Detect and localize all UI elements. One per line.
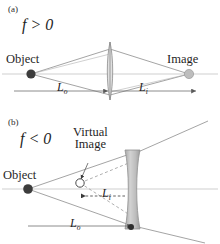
panel-a-Li-sub: i bbox=[146, 87, 148, 96]
panel-b-Lo-sub: o bbox=[77, 223, 81, 232]
ray-inner-upper-a bbox=[31, 54, 110, 74]
ray-lower-refracted-a bbox=[110, 74, 189, 95]
panel-b-Lo-base: L bbox=[70, 216, 77, 230]
object-distance-endpoint-b bbox=[128, 224, 134, 230]
virtual-image-leader-line bbox=[81, 163, 88, 179]
ray-upper-incident-a bbox=[31, 49, 110, 74]
panel-a-tag: (a) bbox=[8, 4, 18, 14]
panel-a-object-label: Object bbox=[6, 52, 39, 67]
panel-b-image-distance-label: Li bbox=[102, 186, 111, 202]
figure-canvas bbox=[0, 0, 220, 244]
panel-a-group bbox=[2, 42, 218, 100]
panel-a-image-distance-label: Li bbox=[139, 80, 148, 96]
virtual-image-caption: Virtual Image bbox=[73, 126, 108, 150]
virtual-image-point-b bbox=[76, 179, 84, 187]
panel-a-Lo-base: L bbox=[57, 80, 64, 94]
panel-a-focal-condition: f > 0 bbox=[22, 16, 53, 34]
optics-figure: (a) f > 0 Object Image Lo Li (b) f < 0 V… bbox=[0, 0, 220, 244]
panel-b-object-distance-label: Lo bbox=[70, 216, 80, 232]
panel-b-tag: (b) bbox=[8, 117, 19, 127]
panel-b-focal-condition: f < 0 bbox=[20, 130, 51, 148]
panel-a-Li-base: L bbox=[139, 80, 146, 94]
object-point-a bbox=[26, 69, 35, 78]
panel-b-object-label: Object bbox=[3, 168, 36, 183]
panel-b-Li-base: L bbox=[102, 186, 109, 200]
panel-a-Lo-sub: o bbox=[64, 87, 68, 96]
ray-inner-lower-a bbox=[110, 74, 189, 92]
ray-lower-refracted-b bbox=[138, 227, 205, 243]
object-point-b bbox=[23, 184, 33, 194]
panel-b-Li-sub: i bbox=[109, 193, 111, 202]
panel-a-object-distance-label: Lo bbox=[57, 80, 67, 96]
ray-lower-incident-a bbox=[31, 74, 110, 95]
virtual-image-caption-line2: Image bbox=[73, 138, 108, 150]
ray-upper-refracted-b bbox=[138, 121, 208, 152]
image-point-a bbox=[184, 69, 193, 78]
panel-a-image-label: Image bbox=[167, 52, 198, 67]
